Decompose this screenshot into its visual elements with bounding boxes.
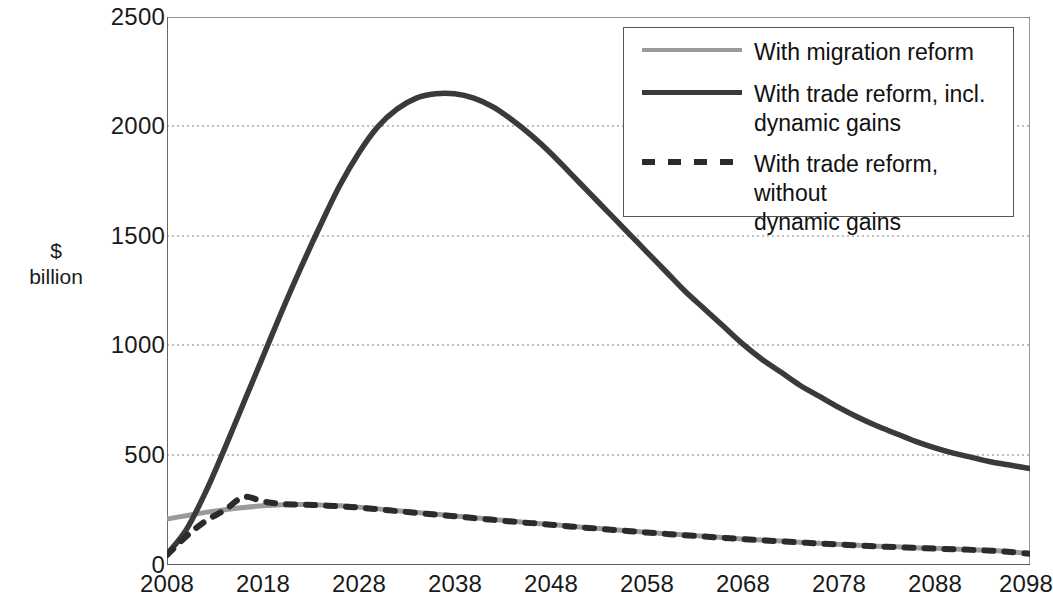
legend-label-line: dynamic gains — [754, 109, 985, 138]
legend-label: With migration reform — [750, 38, 974, 67]
x-tick-label: 2038 — [428, 570, 482, 598]
x-tick-label: 2068 — [716, 570, 770, 598]
series-line — [167, 504, 1030, 553]
x-tick-label: 2058 — [620, 570, 674, 598]
legend-label-line: With migration reform — [754, 38, 974, 67]
chart-legend: With migration reform With trade reform,… — [623, 27, 1014, 217]
y-tick-label: 500 — [73, 441, 165, 469]
x-tick-label: 2018 — [236, 570, 290, 598]
y-tick-label: 2500 — [73, 3, 165, 31]
x-tick-label: 2088 — [908, 570, 962, 598]
y-tick-label: 1500 — [73, 222, 165, 250]
legend-item-migration-reform: With migration reform — [624, 38, 1015, 67]
x-tick-label: 2078 — [812, 570, 866, 598]
legend-label-line: With trade reform, without — [754, 150, 1015, 208]
legend-label: With trade reform, incl. dynamic gains — [750, 80, 985, 138]
legend-swatch-solid-dark — [638, 80, 750, 102]
x-tick-label: 2008 — [140, 570, 194, 598]
x-tick-label: 2028 — [332, 570, 386, 598]
legend-item-trade-reform-no-dynamic: With trade reform, without dynamic gains — [624, 150, 1015, 237]
legend-label-line: dynamic gains — [754, 208, 1015, 237]
legend-swatch-solid-gray — [638, 38, 750, 60]
legend-label: With trade reform, without dynamic gains — [750, 150, 1015, 237]
x-tick-label: 2048 — [524, 570, 578, 598]
legend-label-line: With trade reform, incl. — [754, 80, 985, 109]
y-tick-label: 2000 — [73, 112, 165, 140]
y-axis-tick-labels: 2500 2000 1500 1000 500 0 — [60, 0, 165, 614]
x-tick-label: 2098 — [999, 570, 1053, 598]
legend-item-trade-reform-dynamic: With trade reform, incl. dynamic gains — [624, 80, 1015, 138]
y-tick-label: 1000 — [73, 331, 165, 359]
legend-swatch-dashed-dark — [638, 150, 750, 172]
